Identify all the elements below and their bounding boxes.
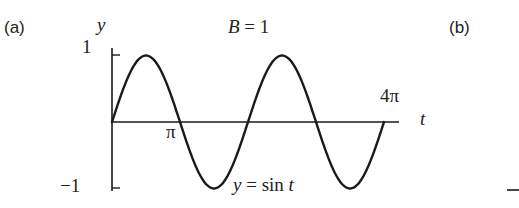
sine-plot xyxy=(0,0,519,208)
